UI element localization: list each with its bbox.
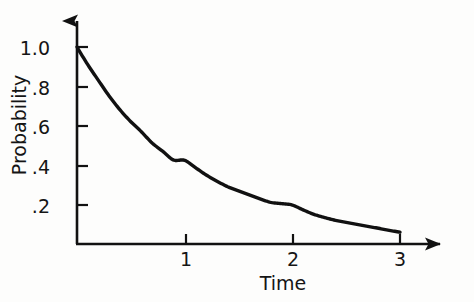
x-axis-tick-label-2: 2	[278, 248, 308, 270]
decay-curve-line	[77, 47, 400, 232]
y-axis-tick-label-0-2: .2	[0, 195, 50, 217]
chart-figure: 1.0 .8 .6 .4 .2 1 2 3 Probability Time	[0, 0, 474, 302]
x-axis-title: Time	[238, 272, 328, 294]
y-axis-title: Probability	[8, 65, 30, 185]
x-axis-ticks	[186, 234, 400, 244]
y-axis-tick-label-1-0: 1.0	[0, 37, 50, 59]
x-axis-tick-label-3: 3	[385, 248, 415, 270]
x-axis-tick-label-1: 1	[171, 248, 201, 270]
y-axis-ticks	[77, 47, 88, 205]
